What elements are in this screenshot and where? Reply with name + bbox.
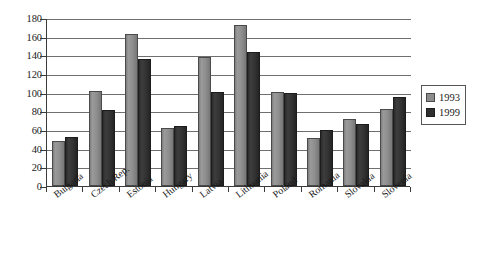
y-tick-label: 120 — [8, 70, 42, 80]
legend-label: 1993 — [439, 92, 460, 103]
legend: 19931999 — [421, 85, 466, 125]
y-tick-label: 140 — [8, 51, 42, 61]
bar-1999-latvia — [211, 92, 224, 186]
y-tick-label: 160 — [8, 33, 42, 43]
bar-group — [343, 18, 369, 186]
y-tick-label: 40 — [8, 145, 42, 155]
bar-group — [307, 18, 333, 186]
y-tick-label: 80 — [8, 107, 42, 117]
bar-group — [125, 18, 151, 186]
bar-group — [234, 18, 260, 186]
legend-item-1993[interactable]: 1993 — [426, 90, 460, 105]
plot-area — [46, 19, 410, 187]
x-tick-mark — [410, 187, 411, 192]
bar-1993-estonia — [125, 34, 138, 186]
x-tick-mark — [264, 187, 265, 192]
bar-1999-estonia — [138, 59, 151, 186]
x-tick-mark — [82, 187, 83, 192]
bar-1993-lithuania — [234, 25, 247, 186]
x-tick-mark — [301, 187, 302, 192]
bar-1993-czech-rep — [89, 91, 102, 186]
x-tick-mark — [119, 187, 120, 192]
bar-1999-lithuania — [247, 52, 260, 186]
legend-item-1999[interactable]: 1999 — [426, 105, 460, 120]
x-tick-mark — [374, 187, 375, 192]
x-tick-mark — [337, 187, 338, 192]
bar-group — [52, 18, 78, 186]
bar-1993-romania — [307, 138, 320, 186]
y-tick-label: 100 — [8, 89, 42, 99]
bar-group — [89, 18, 115, 186]
x-tick-mark — [228, 187, 229, 192]
legend-label: 1999 — [439, 107, 460, 118]
x-tick-mark — [155, 187, 156, 192]
bar-1993-latvia — [198, 57, 211, 186]
bar-chart: 180160140120100806040200 BulgariaCzech R… — [0, 0, 484, 255]
bar-group — [161, 18, 187, 186]
bar-1993-bulgaria — [52, 141, 65, 186]
y-tick-label: 0 — [8, 182, 42, 192]
bar-1993-hungary — [161, 128, 174, 186]
y-tick-label: 20 — [8, 163, 42, 173]
x-tick-mark — [192, 187, 193, 192]
bar-group — [380, 18, 406, 186]
y-tick-label: 180 — [8, 14, 42, 24]
bar-1993-poland — [271, 92, 284, 186]
bar-1993-slovakia — [343, 119, 356, 186]
y-tick-label: 60 — [8, 126, 42, 136]
bar-group — [198, 18, 224, 186]
series-1993-swatch — [426, 93, 435, 102]
x-tick-mark — [46, 187, 47, 192]
bar-group — [271, 18, 297, 186]
bar-1999-poland — [284, 93, 297, 186]
series-1999-swatch — [426, 108, 435, 117]
bar-1993-slovenia — [380, 109, 393, 186]
